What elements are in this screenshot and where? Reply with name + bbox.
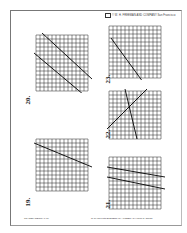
transparency-number: TRANSPARENCY 7-19 bbox=[24, 217, 49, 220]
graph-19 bbox=[34, 137, 92, 193]
graph-21 bbox=[107, 155, 165, 211]
problem-number-19: 19. bbox=[24, 198, 32, 207]
publisher-credit: © W. H. FREEMAN AND COMPANY San Francisc… bbox=[105, 13, 175, 18]
problem-number-21: 21. bbox=[104, 200, 112, 209]
publisher-logo-icon bbox=[105, 13, 111, 18]
graph-22 bbox=[107, 89, 165, 141]
textbook-credit: To be used with ELEMENTARY ALGEBRA by Ha… bbox=[91, 217, 152, 219]
credit-text: © W. H. FREEMAN AND COMPANY San Francisc… bbox=[112, 14, 175, 17]
problem-number-23: 23. bbox=[104, 75, 112, 84]
problem-number-22: 22. bbox=[104, 130, 112, 139]
graph-20 bbox=[34, 33, 92, 93]
problem-number-20: 20. bbox=[24, 96, 32, 105]
graph-23 bbox=[107, 24, 165, 80]
